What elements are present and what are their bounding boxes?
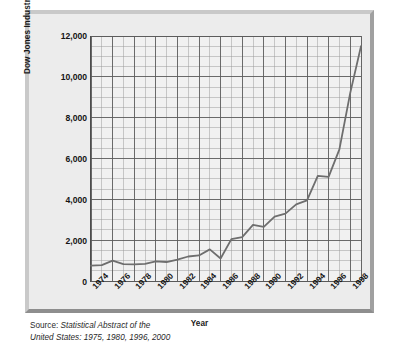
source-note: Source: Statistical Abstract of the Unit…: [30, 320, 170, 343]
chart-frame: Dow Jones Industrial Average 02,0004,000…: [25, 10, 374, 313]
plot-area: 02,0004,0006,0008,00010,00012,000 197419…: [90, 36, 361, 282]
y-tick-label: 6,000: [65, 154, 87, 164]
y-axis-tick-labels: 02,0004,0006,0008,00010,00012,000: [35, 36, 87, 281]
y-tick-label: 12,000: [61, 31, 87, 41]
x-axis-tick-labels: 1974197619781980198219841986198819901992…: [91, 281, 361, 321]
data-series-line: [91, 36, 361, 281]
y-tick-label: 8,000: [65, 113, 87, 123]
y-tick-label: 4,000: [65, 195, 87, 205]
y-tick-label: 10,000: [61, 72, 87, 82]
source-label: Source:: [30, 321, 61, 330]
y-tick-label: 2,000: [65, 236, 87, 246]
chart-frame-inner: Dow Jones Industrial Average 02,0004,000…: [29, 14, 370, 309]
y-axis-title: Dow Jones Industrial Average: [23, 0, 32, 74]
source-line-2: United States: 1975, 1980, 1996, 2000: [30, 332, 170, 344]
y-tick-label: 0: [82, 277, 87, 287]
source-title-line-1: Statistical Abstract of the: [61, 321, 151, 330]
source-line-1: Source: Statistical Abstract of the: [30, 320, 170, 332]
